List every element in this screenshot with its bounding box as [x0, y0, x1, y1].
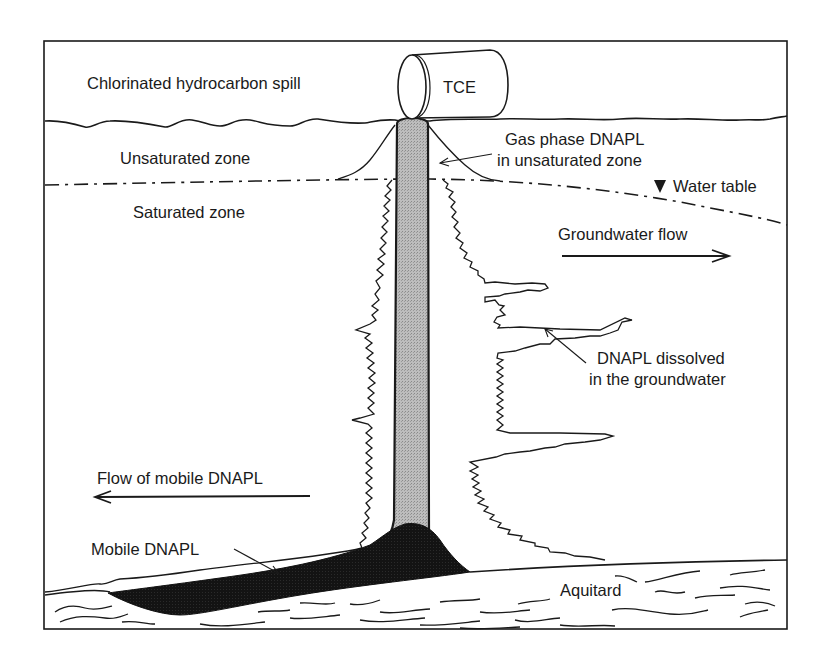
mobile-dnapl-label: Mobile DNAPL: [91, 540, 199, 558]
flow-mobile-dnapl-label: Flow of mobile DNAPL: [97, 469, 263, 487]
groundwater-flow-label: Groundwater flow: [558, 225, 687, 243]
gas-phase-label-1: Gas phase DNAPL: [505, 130, 644, 148]
gas-phase-label-2: in unsaturated zone: [497, 151, 642, 169]
spill-title: Chlorinated hydrocarbon spill: [87, 74, 301, 92]
aquitard-label: Aquitard: [560, 581, 621, 599]
dnapl-diagram: TCE Chlorinated hydrocarbon spill Unsatu…: [0, 0, 822, 661]
unsaturated-zone-label: Unsaturated zone: [120, 149, 250, 167]
dissolved-label-1: DNAPL dissolved: [597, 349, 725, 367]
tce-drum: TCE: [398, 50, 508, 119]
dissolved-label-2: in the groundwater: [589, 370, 726, 388]
saturated-zone-label: Saturated zone: [133, 203, 245, 221]
drum-label: TCE: [443, 78, 476, 96]
water-table-label: Water table: [673, 177, 757, 195]
